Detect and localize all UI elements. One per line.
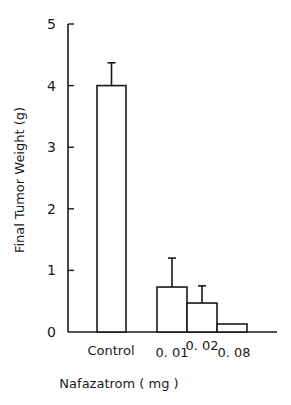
bar xyxy=(187,303,217,332)
bar xyxy=(97,86,126,332)
x-category-label: 0. 02 xyxy=(185,338,218,353)
x-axis-title: Nafazatrom ( mg ) xyxy=(59,376,178,391)
x-category-label: 0. 01 xyxy=(155,345,188,360)
bar xyxy=(217,324,247,332)
y-ticks: 012345 xyxy=(47,16,74,340)
bars xyxy=(97,63,247,332)
y-tick-label: 2 xyxy=(47,201,56,217)
x-category-labels: Control0. 010. 020. 08 xyxy=(88,338,251,360)
y-tick-label: 3 xyxy=(47,139,56,155)
y-tick-label: 1 xyxy=(47,262,56,278)
x-category-label: 0. 08 xyxy=(217,345,250,360)
bar xyxy=(157,287,187,332)
x-category-label: Control xyxy=(88,343,135,358)
y-tick-label: 4 xyxy=(47,78,56,94)
bar-chart: 012345 Control0. 010. 020. 08 Final Tumo… xyxy=(0,0,291,405)
y-tick-label: 0 xyxy=(47,324,56,340)
y-tick-label: 5 xyxy=(47,16,56,32)
y-axis-title: Final Tumor Weight (g) xyxy=(12,107,27,253)
